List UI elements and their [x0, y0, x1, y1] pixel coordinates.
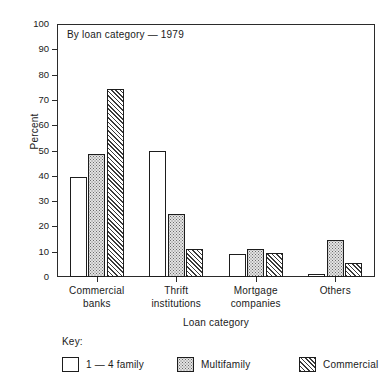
- legend-label: Multifamily: [201, 359, 250, 370]
- x-category-label-line: Mortgage: [211, 285, 301, 298]
- x-category-label-line: Commercial: [52, 285, 142, 298]
- legend-label: Commercial: [323, 359, 378, 370]
- x-category-label-line: Thrift: [131, 285, 221, 298]
- x-category-label: Mortgagecompanies: [211, 285, 301, 310]
- legend-label: 1 — 4 family: [86, 359, 144, 370]
- bar-chart-figure: Percent 0102030405060708090100 By loan c…: [0, 0, 387, 380]
- legend: 1 — 4 familyMultifamilyCommercial: [62, 354, 382, 374]
- x-category-label: Commercialbanks: [52, 285, 142, 310]
- x-category-label-line: banks: [52, 298, 142, 311]
- x-category-label-line: institutions: [131, 298, 221, 311]
- x-category-label-line: companies: [211, 298, 301, 311]
- legend-item: Multifamily: [177, 354, 250, 374]
- legend-item: Commercial: [299, 354, 378, 374]
- legend-title: Key:: [62, 336, 83, 347]
- x-category-label: Others: [290, 285, 380, 298]
- legend-swatch: [299, 357, 316, 372]
- x-category-label: Thriftinstitutions: [131, 285, 221, 310]
- x-axis-title: Loan category: [57, 317, 375, 328]
- x-category-label-line: Others: [290, 285, 380, 298]
- legend-swatch: [177, 357, 194, 372]
- legend-item: 1 — 4 family: [62, 354, 144, 374]
- legend-swatch: [62, 357, 79, 372]
